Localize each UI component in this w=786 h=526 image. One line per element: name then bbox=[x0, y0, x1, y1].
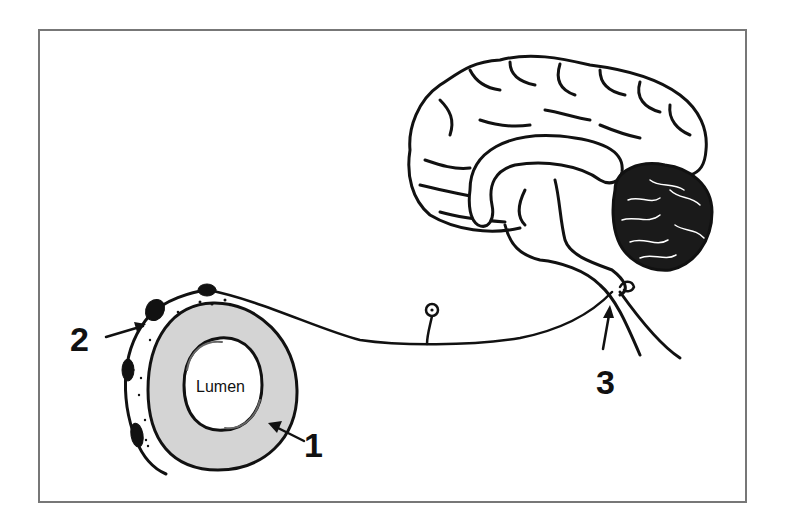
lumen-label: Lumen bbox=[196, 378, 245, 396]
marker-1-label: 1 bbox=[304, 428, 323, 462]
brain bbox=[409, 56, 712, 358]
diagram-canvas bbox=[0, 0, 786, 526]
arrow-3 bbox=[603, 305, 614, 349]
marker-2-label: 2 bbox=[70, 322, 89, 356]
marker-3-label: 3 bbox=[596, 365, 615, 399]
